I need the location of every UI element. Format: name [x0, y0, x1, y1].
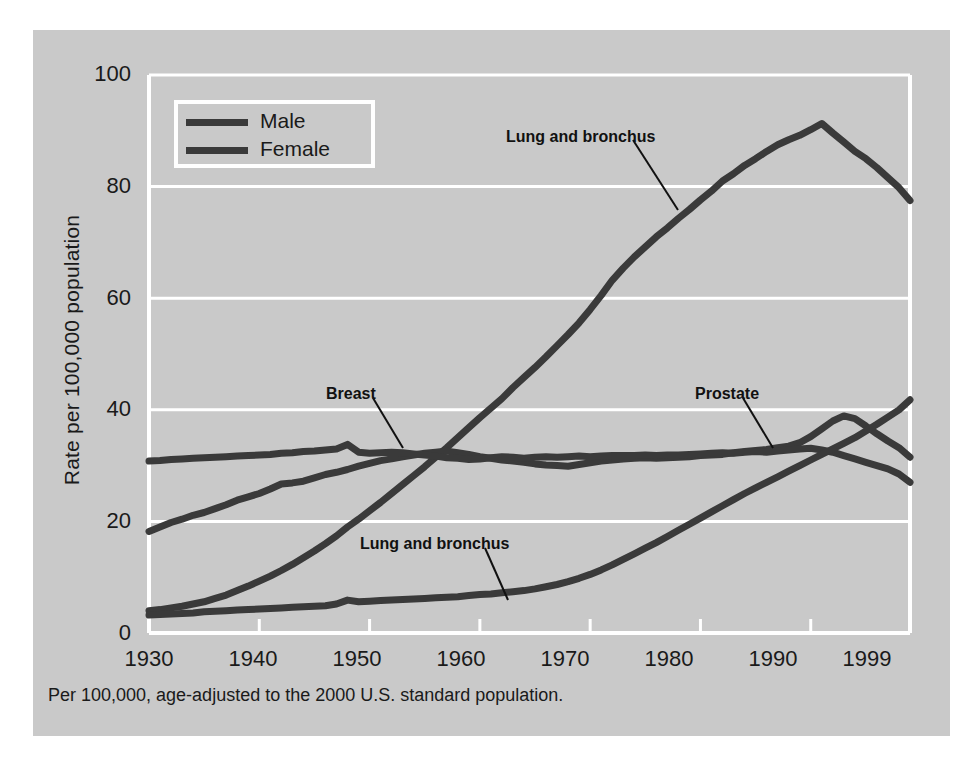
chart-panel: Rate per 100,000 population 0 20 40 60 8…: [33, 30, 950, 736]
x-tick-marks: [149, 619, 910, 633]
x-tick-1960: 1960: [416, 646, 506, 672]
series-line-1: [149, 416, 910, 532]
legend-label-male: Male: [260, 109, 306, 133]
y-tick-60: 60: [71, 285, 131, 311]
figure-root: Rate per 100,000 population 0 20 40 60 8…: [0, 0, 973, 763]
annotation-leader-lines: [373, 140, 773, 600]
series-lines: [149, 124, 910, 616]
x-tick-1970: 1970: [520, 646, 610, 672]
annotation-breast: Breast: [326, 385, 376, 403]
annotation-lung-male: Lung and bronchus: [506, 128, 655, 146]
y-tick-40: 40: [71, 396, 131, 422]
leader-prostate: [743, 398, 773, 448]
series-line-0: [149, 124, 910, 611]
annotation-prostate: Prostate: [695, 385, 759, 403]
leader-lung-male: [633, 140, 678, 210]
annotation-lung-female: Lung and bronchus: [360, 535, 509, 553]
legend: Male Female: [174, 100, 375, 168]
y-tick-80: 80: [71, 173, 131, 199]
x-tick-1940: 1940: [208, 646, 298, 672]
legend-swatch-male: [186, 119, 248, 126]
x-tick-1980: 1980: [624, 646, 714, 672]
y-tick-100: 100: [71, 61, 131, 87]
y-axis-label: Rate per 100,000 population: [60, 140, 90, 560]
x-tick-1999: 1999: [822, 646, 912, 672]
leader-breast: [373, 398, 403, 448]
chart-footnote: Per 100,000, age-adjusted to the 2000 U.…: [48, 685, 563, 706]
legend-swatch-female: [186, 147, 248, 154]
x-tick-1990: 1990: [728, 646, 818, 672]
x-tick-1930: 1930: [104, 646, 194, 672]
legend-label-female: Female: [260, 137, 330, 161]
x-tick-1950: 1950: [312, 646, 402, 672]
y-tick-0: 0: [71, 620, 131, 646]
line-chart-svg: [33, 30, 950, 736]
y-tick-20: 20: [71, 508, 131, 534]
